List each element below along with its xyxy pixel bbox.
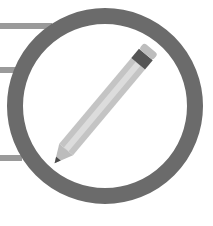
no-editing-symbol: No editing [0,0,213,226]
pencil-icon [48,43,158,169]
